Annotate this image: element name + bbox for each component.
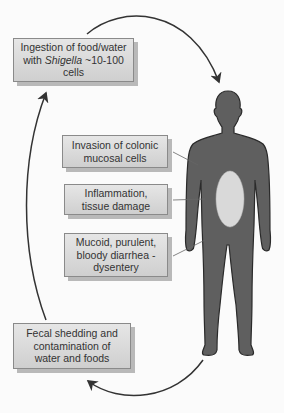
invasion-line2: mucosal cells [72,152,158,165]
mucoid-line2: bloody diarrhea - [76,249,157,262]
invasion-line1: Invasion of colonic [72,139,158,152]
colon-region [216,171,244,227]
inflammation-line1: Inflammation, [82,187,150,200]
ingestion-box: Ingestion of food/water with Shigella ~1… [13,38,134,82]
shigella-cycle-diagram: Ingestion of food/water with Shigella ~1… [0,0,284,413]
inflammation-line2: tissue damage [82,200,150,213]
mucoid-line3: dysentery [76,261,157,274]
ingestion-line3: cells [20,66,126,79]
ingestion-line2-pre: with [23,54,45,66]
ingestion-line2-post: ~10-100 [82,54,124,66]
ingestion-line2: with Shigella ~10-100 [20,54,126,67]
shigella-name: Shigella [45,54,82,66]
connector-inflammation [173,199,205,200]
fecal-line3: water and foods [26,352,118,365]
ingestion-line1: Ingestion of food/water [20,41,126,54]
fecal-line2: contamination of [26,340,118,353]
arrow-fecal-to-ingestion [27,93,47,320]
fecal-line1: Fecal shedding and [26,327,118,340]
mucoid-line1: Mucoid, purulent, [76,236,157,249]
inflammation-box: Inflammation, tissue damage [64,184,168,215]
fecal-box: Fecal shedding and contamination of wate… [13,323,131,369]
mucoid-box: Mucoid, purulent, bloody diarrhea - dyse… [64,233,168,277]
invasion-box: Invasion of colonic mucosal cells [62,135,168,168]
